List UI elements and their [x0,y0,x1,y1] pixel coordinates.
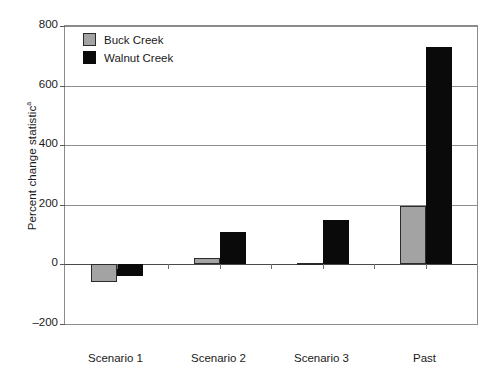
x-axis-tickmark [168,264,169,269]
plot-area [64,25,478,325]
bar-buck-creek [297,263,323,265]
bar-walnut-creek [220,232,246,265]
bar-walnut-creek [323,220,349,265]
legend-item-buck-creek: Buck Creek [83,33,173,46]
y-axis-tick-label: 600 [18,79,58,91]
y-axis-tickmark [60,86,65,87]
y-axis-tickmark [60,324,65,325]
x-axis-tick-labels: Scenario 1Scenario 2Scenario 3Past [64,352,478,372]
x-axis-tickmark [323,264,324,269]
bar-buck-creek [400,206,426,264]
bar-buck-creek [91,264,117,282]
bar-walnut-creek [426,47,452,265]
legend-swatch-icon [83,51,96,64]
bar-buck-creek [194,258,220,264]
x-axis-tickmark [117,264,118,269]
bar-walnut-creek [117,264,143,276]
x-axis-tick-label: Scenario 1 [88,352,143,364]
x-axis-tick-label: Past [413,352,436,364]
y-axis-tick-label: 0 [18,257,58,269]
legend-item-label: Buck Creek [104,34,163,46]
x-axis-tick-label: Scenario 3 [294,352,349,364]
x-axis-tickmark [220,264,221,269]
bar-chart-figure: Percent change statistica 8006004002000–… [0,0,503,387]
legend-item-label: Walnut Creek [104,52,173,64]
x-axis-tickmark [374,264,375,269]
gridline [65,145,477,146]
y-axis-tick-label: 400 [18,138,58,150]
y-axis-tickmark [60,145,65,146]
gridline [65,86,477,87]
y-axis-tick-label: 200 [18,198,58,210]
legend-swatch-icon [83,33,96,46]
y-axis-tickmark [60,264,65,265]
y-axis-tickmark [60,205,65,206]
x-axis-tickmark [426,264,427,269]
legend-item-walnut-creek: Walnut Creek [83,51,173,64]
x-axis-tickmark [271,264,272,269]
y-axis-tick-label: 800 [18,19,58,31]
gridline [65,26,477,27]
x-axis-tick-label: Scenario 2 [191,352,246,364]
chart-legend: Buck CreekWalnut Creek [83,33,173,64]
y-axis-tick-label: –200 [18,317,58,329]
y-axis-tickmark [60,26,65,27]
y-axis-tick-labels: 8006004002000–200 [18,0,58,387]
